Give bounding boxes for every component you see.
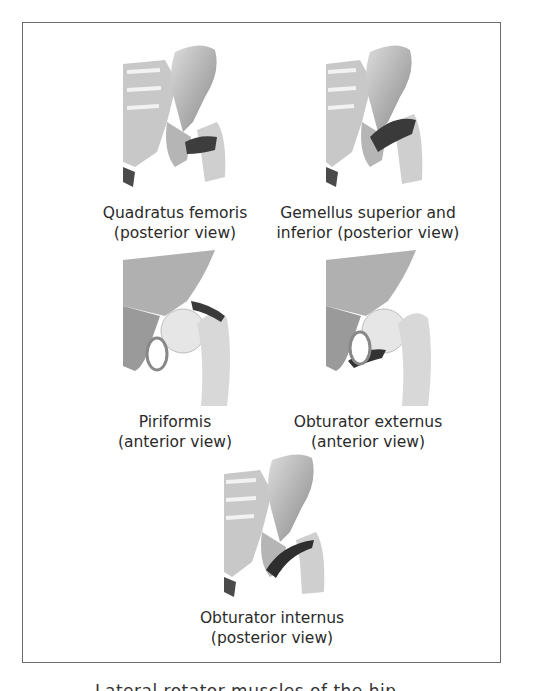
caption-view: (anterior view) — [75, 432, 275, 452]
figure-obturator-internus: Obturator internus (posterior view) — [172, 452, 372, 648]
caption-title: Piriformis — [75, 412, 275, 432]
caption-title: Obturator internus — [172, 608, 372, 628]
posterior-hip-illustration — [298, 42, 438, 197]
caption-view: (posterior view) — [75, 223, 275, 243]
caption-view: (posterior view) — [172, 628, 372, 648]
caption-title: Quadratus femoris — [75, 203, 275, 223]
figure-caption: Quadratus femoris (posterior view) — [75, 203, 275, 243]
caption-title: Gemellus superior and — [268, 203, 468, 223]
posterior-hip-illustration — [105, 42, 245, 197]
figure-caption: Piriformis (anterior view) — [75, 412, 275, 452]
caption-view: inferior (posterior view) — [268, 223, 468, 243]
figure-caption: Obturator externus (anterior view) — [268, 412, 468, 452]
figure-gemellus: Gemellus superior and inferior (posterio… — [268, 42, 468, 243]
figure-caption: Obturator internus (posterior view) — [172, 608, 372, 648]
anterior-hip-illustration — [105, 246, 245, 406]
figure-bottom-caption: Lateral rotator muscles of the hip — [95, 679, 396, 691]
caption-title: Obturator externus — [268, 412, 468, 432]
figure-quadratus-femoris: Quadratus femoris (posterior view) — [75, 42, 275, 243]
figure-piriformis: Piriformis (anterior view) — [75, 246, 275, 452]
anterior-hip-illustration — [298, 246, 438, 406]
posterior-hip-illustration — [202, 452, 342, 602]
figure-caption: Gemellus superior and inferior (posterio… — [268, 203, 468, 243]
caption-view: (anterior view) — [268, 432, 468, 452]
figure-obturator-externus: Obturator externus (anterior view) — [268, 246, 468, 452]
